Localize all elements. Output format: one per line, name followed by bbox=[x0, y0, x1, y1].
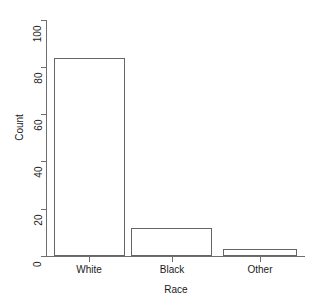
y-axis-tick-40 bbox=[41, 161, 46, 162]
bar-other bbox=[223, 249, 297, 256]
x-axis-label-black: Black bbox=[160, 264, 184, 275]
y-axis-tick-100 bbox=[41, 20, 46, 21]
y-axis-tick-80 bbox=[41, 67, 46, 68]
y-axis-label-0: 0 bbox=[33, 262, 44, 268]
y-axis-label-60: 60 bbox=[33, 120, 44, 131]
y-axis-tick-20 bbox=[41, 209, 46, 210]
x-axis-tick-other bbox=[260, 257, 261, 262]
bar-white bbox=[54, 58, 125, 256]
bar-chart: 100 80 60 40 20 0 Count White Black Othe… bbox=[0, 0, 312, 308]
bar-black bbox=[131, 228, 212, 256]
y-axis-tick-60 bbox=[41, 114, 46, 115]
x-axis-tick-black bbox=[172, 257, 173, 262]
y-axis-label-80: 80 bbox=[33, 73, 44, 84]
y-axis-title: Count bbox=[14, 114, 25, 141]
y-axis-line bbox=[46, 20, 47, 257]
x-axis-label-other: Other bbox=[247, 264, 272, 275]
y-axis-label-20: 20 bbox=[33, 215, 44, 226]
x-axis-title: Race bbox=[164, 284, 187, 295]
x-axis-tick-white bbox=[89, 257, 90, 262]
x-axis-line bbox=[46, 256, 305, 257]
y-axis-label-40: 40 bbox=[33, 167, 44, 178]
y-axis-label-100: 100 bbox=[33, 26, 44, 43]
x-axis-label-white: White bbox=[76, 264, 102, 275]
